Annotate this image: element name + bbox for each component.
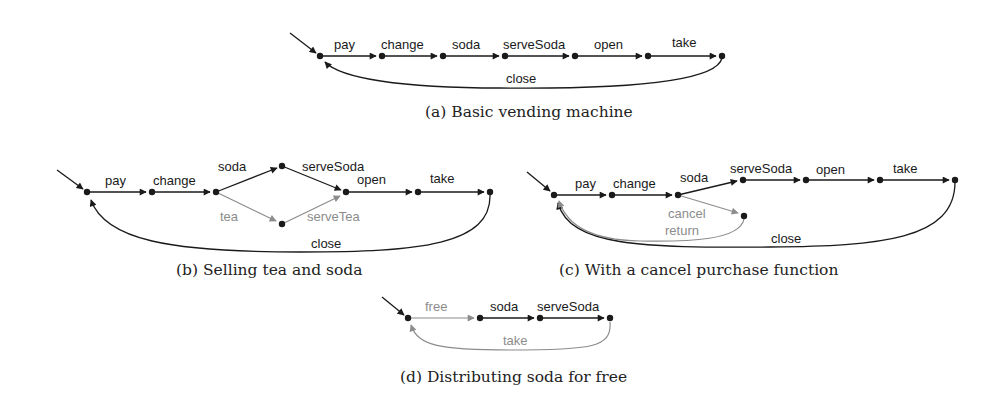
edge-label: soda xyxy=(452,37,481,52)
edge-label: soda xyxy=(490,299,519,314)
state-node xyxy=(213,189,219,195)
edge-label: tea xyxy=(220,209,239,224)
figure-c-gray-labels: cancel return xyxy=(665,206,706,238)
edge-label: soda xyxy=(680,170,709,185)
caption-b: (b) Selling tea and soda xyxy=(176,261,363,279)
edge-label: open xyxy=(357,172,386,187)
edge-label: serveSoda xyxy=(730,161,793,176)
state-node xyxy=(487,189,493,195)
initial-arrow xyxy=(382,297,404,315)
state-node xyxy=(607,315,613,321)
caption-a: (a) Basic vending machine xyxy=(425,103,633,121)
edge-label: serveSoda xyxy=(302,159,365,174)
state-node xyxy=(149,189,155,195)
edge-close xyxy=(91,194,490,252)
state-node xyxy=(343,189,349,195)
edge-label: open xyxy=(816,162,845,177)
state-node xyxy=(317,53,323,59)
edge-label: open xyxy=(594,37,623,52)
figure-b-gray-labels: tea serveTea xyxy=(220,209,361,224)
caption-d: (d) Distributing soda for free xyxy=(400,368,627,386)
figure-b-labels: pay change soda serveSoda open take clos… xyxy=(105,159,455,251)
edge-label: pay xyxy=(334,37,355,52)
figure-a-labels: pay change soda serveSoda open take clos… xyxy=(334,35,697,86)
state-node xyxy=(877,177,883,183)
vending-machine-diagrams: pay change soda serveSoda open take clos… xyxy=(0,0,1008,402)
edge-label: change xyxy=(153,173,196,188)
edge-label: change xyxy=(613,176,656,191)
edge-label: take xyxy=(503,333,528,348)
edge-label: soda xyxy=(218,159,247,174)
state-node xyxy=(279,221,285,227)
state-node xyxy=(405,315,411,321)
edge-label: change xyxy=(381,37,424,52)
state-node xyxy=(572,53,578,59)
initial-arrow xyxy=(290,33,316,53)
edge-label: pay xyxy=(575,176,596,191)
figure-c-labels: pay change soda serveSoda open take clos… xyxy=(575,161,918,246)
edge-label: close xyxy=(771,231,801,246)
state-node xyxy=(502,53,508,59)
edge-label: pay xyxy=(105,173,126,188)
state-node xyxy=(645,53,651,59)
state-node xyxy=(477,315,483,321)
figure-d-labels: free soda serveSoda take xyxy=(425,299,600,348)
state-node xyxy=(803,177,809,183)
edge-label: serveTea xyxy=(307,209,361,224)
state-node xyxy=(609,192,615,198)
state-node xyxy=(84,189,90,195)
state-node xyxy=(952,177,958,183)
edge-close xyxy=(558,182,955,247)
state-node xyxy=(740,177,746,183)
edge-label: cancel xyxy=(668,206,706,221)
edge-label: take xyxy=(672,35,697,50)
state-node xyxy=(741,213,747,219)
state-node xyxy=(440,53,446,59)
edge-label: return xyxy=(665,223,699,238)
state-node xyxy=(551,192,557,198)
edge-label: take xyxy=(893,161,918,176)
edge-label: serveSoda xyxy=(503,37,566,52)
caption-c: (c) With a cancel purchase function xyxy=(559,261,838,279)
state-node xyxy=(379,53,385,59)
state-node xyxy=(675,192,681,198)
state-node xyxy=(279,163,285,169)
initial-arrow xyxy=(57,170,83,189)
edge-label: take xyxy=(430,171,455,186)
initial-arrow xyxy=(527,172,550,191)
edge-label: close xyxy=(506,71,536,86)
state-node xyxy=(415,189,421,195)
figure-c-gray xyxy=(559,195,744,241)
figure-c-nodes xyxy=(551,177,958,219)
edge-label: close xyxy=(311,236,341,251)
edge-label: free xyxy=(425,299,447,314)
state-node xyxy=(537,315,543,321)
state-node xyxy=(719,53,725,59)
edge-label: serveSoda xyxy=(537,299,600,314)
